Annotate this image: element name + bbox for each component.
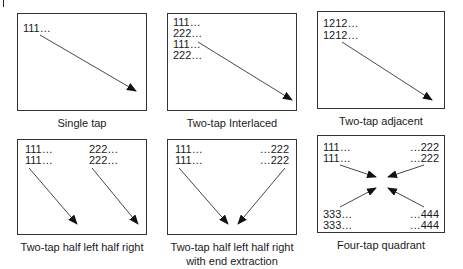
corner-mark [3, 0, 4, 7]
caption-two-tap-interlaced: Two-tap Interlaced [167, 116, 297, 130]
caption-two-tap-adjacent: Two-tap adjacent [317, 114, 445, 128]
panel-two-tap-end-extraction: 111… 111… …222 …222 [167, 139, 297, 235]
panel-four-tap-quadrant: 111… 111… …222 …222 333… 333… …444 …444 [317, 135, 445, 233]
caption-line-2: with end extraction [150, 254, 314, 268]
scan-arrows-icon [318, 136, 446, 234]
panel-two-tap-interlaced: 111… 222… 111… 222… [167, 13, 297, 111]
scan-arrow-icon [168, 14, 298, 112]
scan-arrows-icon [18, 140, 148, 236]
caption-single-tap: Single tap [17, 116, 147, 130]
scan-arrow-icon [18, 14, 148, 112]
scan-arrows-icon [168, 140, 298, 236]
caption-four-tap-quadrant: Four-tap quadrant [317, 238, 445, 252]
caption-line-1: Two-tap half left half right [150, 240, 314, 254]
panel-two-tap-half-left-half-right: 111… 111… 222… 222… [17, 139, 147, 235]
caption-two-tap-half-left-half-right: Two-tap half left half right [10, 240, 154, 254]
scan-arrow-icon [318, 12, 446, 110]
panel-two-tap-adjacent: 1212… 1212… [317, 11, 445, 109]
caption-two-tap-end-extraction: Two-tap half left half right with end ex… [150, 240, 314, 268]
panel-single-tap: 111… [17, 13, 147, 111]
